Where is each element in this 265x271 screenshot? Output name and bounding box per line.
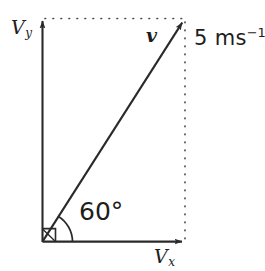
y-axis-label-symbol: V <box>11 16 25 38</box>
x-axis-label-subscript: x <box>168 255 175 269</box>
magnitude-exponent: −1 <box>247 25 265 40</box>
vector-label: v <box>146 26 157 45</box>
magnitude-label: 5 ms−1 <box>194 26 265 49</box>
y-axis-label: Vy <box>11 18 32 39</box>
magnitude-value: 5 ms <box>194 26 247 50</box>
x-axis-label-symbol: V <box>154 245 168 267</box>
x-axis-label: Vx <box>154 247 175 268</box>
angle-label: 60° <box>79 199 123 224</box>
angle-arc <box>58 216 72 241</box>
y-axis-label-subscript: y <box>25 26 32 40</box>
vector-diagram-canvas: Vy Vx v 5 ms−1 60° <box>0 0 265 271</box>
